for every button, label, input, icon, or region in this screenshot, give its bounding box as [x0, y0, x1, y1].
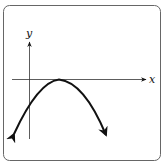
- graph-figure: x y: [0, 0, 164, 167]
- y-axis-label: y: [25, 27, 33, 40]
- x-axis-label: x: [149, 73, 156, 86]
